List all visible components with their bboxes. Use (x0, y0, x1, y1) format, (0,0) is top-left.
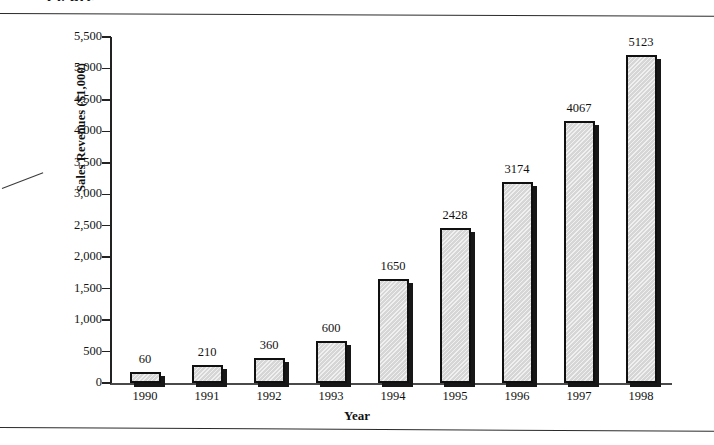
bar-group: 16501994 (362, 37, 424, 383)
x-axis-category-label: 1990 (113, 389, 177, 404)
bar-group: 3601992 (238, 37, 300, 383)
bar-value-label: 600 (299, 321, 363, 336)
bar[interactable] (192, 365, 223, 383)
x-axis-category-label: 1996 (485, 389, 549, 404)
x-axis-category-label: 1992 (237, 389, 301, 404)
bar-value-label: 360 (237, 338, 301, 353)
bar-value-label: 210 (175, 345, 239, 360)
x-axis-category-label: 1993 (299, 389, 363, 404)
bar[interactable] (316, 341, 347, 383)
bar-group: 2101991 (176, 37, 238, 383)
bar-value-label: 2428 (423, 208, 487, 223)
bar-group: 31741996 (486, 37, 548, 383)
x-axis-category-label: 1994 (361, 389, 425, 404)
bar[interactable] (440, 228, 471, 383)
x-axis-category-label: 1995 (423, 389, 487, 404)
bar-group: 40671997 (548, 37, 610, 383)
page-rule-top (0, 13, 714, 17)
bar-value-label: 5123 (609, 35, 673, 50)
bar[interactable] (502, 182, 533, 383)
bar[interactable] (564, 121, 595, 383)
y-axis-tick-label: 3,500 (38, 155, 109, 170)
y-axis-tick-label: 500 (38, 344, 109, 359)
y-axis-tick-label: 1,500 (38, 281, 109, 296)
y-axis-tick-label: 5,500 (38, 29, 109, 44)
x-axis-title: Year (0, 408, 714, 424)
y-axis-tick-label: 5,000 (38, 60, 109, 75)
figure-root: Figure Sales Revenues ($1,000) 05001,000… (0, 0, 714, 445)
y-axis-tick-label: 4,500 (38, 92, 109, 107)
plot-area: 6019902101991360199260019931650199424281… (110, 37, 672, 383)
y-axis-tick-label: 3,000 (38, 186, 109, 201)
bar-group: 51231998 (610, 37, 672, 383)
y-axis-tick-label: 4,000 (38, 123, 109, 138)
y-axis-tick-label: 1,000 (38, 312, 109, 327)
bar-value-label: 4067 (547, 101, 611, 116)
bar[interactable] (378, 279, 409, 383)
bar-value-label: 1650 (361, 259, 425, 274)
bar-group: 6001993 (300, 37, 362, 383)
bar[interactable] (254, 358, 285, 383)
y-axis-tick-label: 2,000 (38, 249, 109, 264)
bar[interactable] (130, 372, 161, 383)
bar-value-label: 60 (113, 352, 177, 367)
bar[interactable] (626, 55, 657, 383)
x-axis-category-label: 1997 (547, 389, 611, 404)
bar-group: 601990 (114, 37, 176, 383)
x-axis-category-label: 1998 (609, 389, 673, 404)
y-axis-tick-label: 0 (38, 375, 109, 390)
y-axis-tick-label: 2,500 (38, 218, 109, 233)
page-rule-bottom (0, 427, 714, 432)
x-axis-category-label: 1991 (175, 389, 239, 404)
bar-group: 24281995 (424, 37, 486, 383)
bar-value-label: 3174 (485, 162, 549, 177)
figure-title-partial: Figure (46, 0, 94, 1)
